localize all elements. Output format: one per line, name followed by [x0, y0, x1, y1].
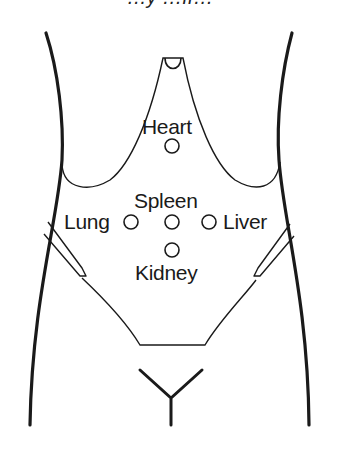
torso-diagram: …y …ff… Heart Spleen Lung Liver Kidney	[0, 0, 340, 450]
lung-label: Lung	[64, 211, 110, 233]
body-left-outline	[30, 33, 62, 425]
liver-label: Liver	[223, 211, 267, 233]
kidney-label: Kidney	[135, 262, 197, 284]
kidney-point-icon[interactable]	[165, 243, 179, 257]
liver-point-icon[interactable]	[202, 215, 216, 229]
sternal-notch	[165, 58, 181, 69]
lung-point-icon[interactable]	[124, 215, 138, 229]
heart-point-icon[interactable]	[165, 139, 179, 153]
body-right-outline	[278, 33, 309, 425]
spleen-point-icon[interactable]	[165, 215, 179, 229]
groin-y-mark	[140, 370, 202, 425]
pelvis-outline-left	[82, 278, 256, 345]
spleen-label: Spleen	[134, 190, 198, 212]
heart-label: Heart	[142, 116, 192, 138]
torso-outline	[0, 0, 340, 450]
